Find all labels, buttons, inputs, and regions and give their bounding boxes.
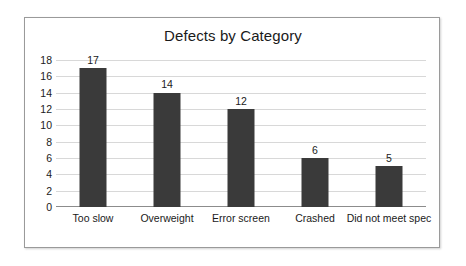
bar[interactable] <box>376 166 403 207</box>
bar[interactable] <box>228 109 255 207</box>
bar-group: 6 Crashed <box>278 60 352 207</box>
y-tick-label: 12 <box>26 104 52 115</box>
y-tick-label: 16 <box>26 71 52 82</box>
bar-value-label: 14 <box>161 79 173 90</box>
plot-area: 17 Too slow 14 Overweight 12 Error scree… <box>56 60 426 207</box>
bar-value-label: 5 <box>386 153 392 164</box>
y-tick-label: 4 <box>26 169 52 180</box>
bar-value-label: 6 <box>312 145 318 156</box>
bar[interactable] <box>80 68 107 207</box>
y-tick-label: 8 <box>26 136 52 147</box>
y-tick-label: 18 <box>26 55 52 66</box>
chart-title: Defects by Category <box>25 27 441 44</box>
bar[interactable] <box>154 93 181 207</box>
bar-group: 14 Overweight <box>130 60 204 207</box>
y-tick-label: 10 <box>26 120 52 131</box>
x-category-label: Did not meet spec <box>346 212 432 225</box>
bar-value-label: 17 <box>87 55 99 66</box>
y-tick-label: 6 <box>26 153 52 164</box>
y-tick-label: 2 <box>26 185 52 196</box>
y-axis: 18 16 14 12 10 8 6 4 2 0 <box>25 60 52 207</box>
y-tick-label: 0 <box>26 202 52 213</box>
bar[interactable] <box>302 158 329 207</box>
bar-group: 17 Too slow <box>56 60 130 207</box>
y-tick-label: 14 <box>26 87 52 98</box>
chart-frame: Defects by Category 18 16 14 12 10 8 6 4… <box>24 17 440 248</box>
bar-group: 5 Did not meet spec <box>352 60 426 207</box>
bar-value-label: 12 <box>235 96 247 107</box>
bar-group: 12 Error screen <box>204 60 278 207</box>
